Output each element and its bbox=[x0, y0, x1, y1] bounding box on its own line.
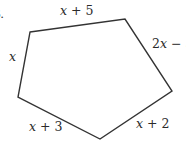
side-label-bottom-right: x + 2 bbox=[136, 118, 169, 131]
side-label-bottom-left: x + 3 bbox=[29, 121, 62, 134]
side-label-left: x bbox=[9, 51, 16, 64]
side-label-top-right: 2x − 3 bbox=[152, 38, 186, 51]
side-label-top: x + 5 bbox=[60, 5, 93, 18]
pentagon-figure: 6. x + 5 2x − 3 x x + 3 x + 2 bbox=[0, 0, 186, 143]
